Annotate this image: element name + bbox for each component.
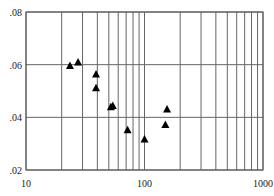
triangle-marker: [92, 70, 100, 78]
triangle-marker: [124, 126, 132, 134]
x-tick-label: 1000: [253, 178, 273, 189]
y-axis-tick-labels: .02.04.06.08: [10, 7, 23, 176]
triangle-marker: [74, 58, 82, 66]
x-axis-tick-labels: 101001000: [21, 178, 273, 189]
x-tick-label: 100: [137, 178, 152, 189]
triangle-marker: [161, 120, 169, 128]
triangle-marker: [92, 84, 100, 92]
scatter-chart: .02.04.06.08 101001000: [0, 0, 274, 196]
triangle-marker: [163, 105, 171, 113]
triangle-marker: [141, 135, 149, 143]
y-tick-label: .06: [10, 60, 23, 71]
y-tick-label: .04: [10, 112, 23, 123]
y-tick-label: .02: [10, 165, 23, 176]
triangle-marker: [66, 61, 74, 69]
y-tick-label: .08: [10, 7, 23, 18]
x-tick-label: 10: [21, 178, 31, 189]
grid-lines: [26, 12, 263, 170]
